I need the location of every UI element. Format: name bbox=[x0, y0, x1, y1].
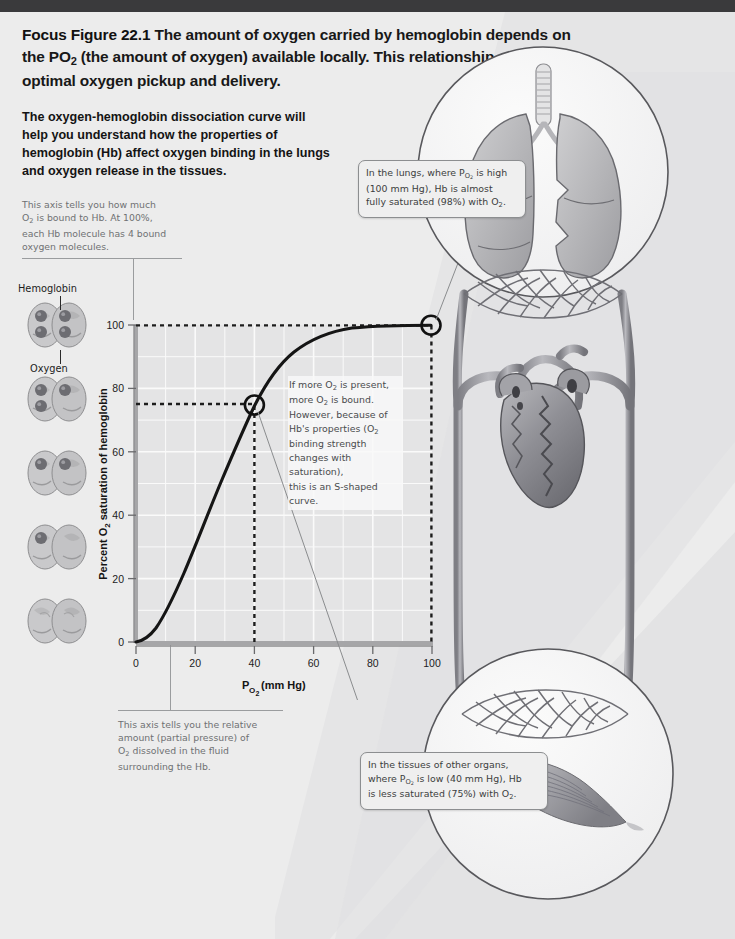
svg-text:60: 60 bbox=[112, 446, 124, 458]
x-axis-note: This axis tells you the relative amount … bbox=[118, 718, 288, 773]
callout-lungs: In the lungs, where PO2 is high (100 mm … bbox=[358, 160, 526, 218]
svg-text:0: 0 bbox=[133, 657, 139, 669]
svg-text:40: 40 bbox=[249, 657, 261, 669]
svg-text:20: 20 bbox=[189, 657, 201, 669]
svg-text:60: 60 bbox=[308, 657, 320, 669]
svg-text:100: 100 bbox=[106, 319, 124, 331]
figure-page: Focus Figure 22.1 The amount of oxygen c… bbox=[0, 0, 735, 939]
svg-text:0: 0 bbox=[118, 636, 124, 648]
svg-text:(mm Hg): (mm Hg) bbox=[261, 679, 306, 691]
page-bleed-text bbox=[30, 778, 370, 808]
callout-tissues: In the tissues of other organs, where PO… bbox=[360, 752, 548, 810]
x-axis-label: P O 2 (mm Hg) bbox=[242, 679, 306, 697]
svg-text:20: 20 bbox=[112, 573, 124, 585]
y-axis-label: Percent O2 saturation of hemoglobin bbox=[97, 388, 112, 580]
x-axis-ticks bbox=[136, 646, 432, 654]
x-axis-note-leader bbox=[118, 710, 283, 711]
svg-text:80: 80 bbox=[112, 382, 124, 394]
heart-group bbox=[499, 349, 589, 508]
x-axis-tick-labels: 0 20 40 60 80 100 bbox=[133, 657, 441, 669]
y-axis-tick-labels: 0 20 40 60 80 100 bbox=[106, 319, 124, 648]
svg-text:O: O bbox=[249, 686, 255, 695]
svg-text:80: 80 bbox=[367, 657, 379, 669]
svg-text:2: 2 bbox=[256, 690, 260, 697]
svg-text:40: 40 bbox=[112, 509, 124, 521]
curve-annotation: If more O2 is present, more O2 is bound.… bbox=[288, 376, 403, 510]
svg-text:Percent O2 saturation of hemog: Percent O2 saturation of hemoglobin bbox=[97, 388, 112, 580]
